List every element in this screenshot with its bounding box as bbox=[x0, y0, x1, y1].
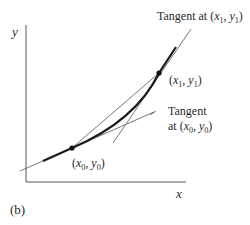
diagram-canvas: y x (x0, y0) (x1, y1) Tangent at (x1, y1… bbox=[0, 0, 250, 225]
y-axis-label: y bbox=[10, 24, 18, 39]
tangent-label-p0-line2: at (x0, y0) bbox=[168, 119, 212, 135]
panel-label: (b) bbox=[10, 202, 25, 217]
x-axis-label: x bbox=[175, 186, 182, 201]
point-label-p1: (x1, y1) bbox=[169, 73, 202, 89]
tangent-label-p1: Tangent at (x1, y1) bbox=[157, 9, 243, 25]
secant-line bbox=[72, 73, 159, 148]
point-p0 bbox=[69, 145, 74, 150]
point-p1 bbox=[156, 70, 161, 75]
curve bbox=[43, 47, 176, 161]
point-label-p0: (x0, y0) bbox=[72, 156, 105, 172]
tangent-label-p0-line1: Tangent bbox=[168, 104, 207, 118]
